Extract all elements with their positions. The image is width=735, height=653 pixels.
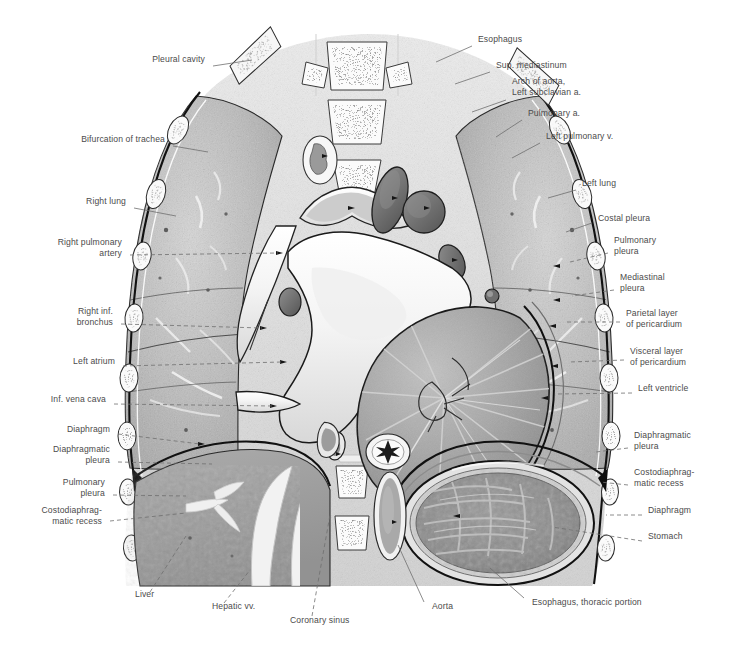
- leader-diaphragm-left: [118, 434, 200, 444]
- leader-left-lung: [548, 190, 576, 198]
- label-pulmonary-a: Pulmonary a.: [528, 108, 580, 119]
- label-pulmonary-pleura-left: Pulmonary pleura: [63, 477, 105, 499]
- label-right-inf-bronchus: Right inf. bronchus: [77, 306, 113, 328]
- label-pulmonary-pleura-right: Pulmonary pleura: [614, 235, 656, 257]
- esophagus-and-aorta-lower: [313, 420, 410, 560]
- label-esophagus-thoracic-portion: Esophagus, thoracic portion: [532, 597, 642, 608]
- label-diaphragm-right: Diaphragm: [648, 505, 691, 516]
- leader-esophagus-top: [436, 46, 472, 62]
- label-pleural-cavity: Pleural cavity: [152, 54, 205, 65]
- label-liver: Liver: [135, 589, 154, 600]
- anatomical-figure: Pleural cavityBifurcation of tracheaRigh…: [0, 0, 735, 653]
- heart: [236, 232, 580, 540]
- leader-sup-mediastinum: [455, 72, 490, 84]
- label-esophagus-top: Esophagus: [478, 34, 522, 45]
- leader-costal-pleura: [566, 223, 592, 232]
- label-costodiaphragmatic-recess-left: Costodiaphrag- matic recess: [42, 505, 102, 527]
- label-bifurcation-of-trachea: Bifurcation of trachea: [81, 134, 165, 145]
- leader-visceral-layer-pericardium: [570, 360, 624, 362]
- leader-right-lung: [134, 208, 176, 216]
- leader-esophagus-thoracic-portion: [490, 568, 524, 598]
- liver: [120, 440, 350, 600]
- label-parietal-layer-pericardium: Parietal layer of pericardium: [626, 308, 682, 330]
- leader-stomach: [552, 527, 642, 541]
- leader-right-pulmonary-artery: [130, 253, 278, 255]
- label-aorta: Aorta: [432, 601, 453, 612]
- label-hepatic-vv: Hepatic vv.: [212, 601, 255, 612]
- leader-hepatic-vv: [224, 570, 250, 603]
- label-right-lung: Right lung: [86, 196, 126, 207]
- leader-liver: [150, 536, 186, 592]
- leader-bifurcation-of-trachea: [173, 146, 208, 152]
- ribs-right-wall: [118, 27, 286, 562]
- label-right-pulmonary-artery: Right pulmonary artery: [58, 237, 122, 259]
- trachea-and-bronchi: [237, 187, 408, 362]
- label-diaphragm-left: Diaphragm: [67, 424, 110, 435]
- vertebral-column: [302, 34, 412, 550]
- great-vessels: [279, 136, 470, 316]
- label-costal-pleura: Costal pleura: [598, 213, 650, 224]
- leader-left-pulmonary-v: [512, 143, 540, 158]
- leader-costodiaphragmatic-recess-right: [600, 482, 628, 485]
- leader-inf-vena-cava: [114, 404, 272, 406]
- leader-pulmonary-pleura-left: [113, 495, 186, 496]
- leader-left-atrium: [123, 362, 282, 366]
- label-left-lung: Left lung: [582, 178, 616, 189]
- leader-left-ventricle: [556, 393, 632, 394]
- label-left-pulmonary-v: Left pulmonary v.: [546, 131, 613, 142]
- leader-aorta: [398, 545, 424, 602]
- leader-pulmonary-a: [496, 120, 522, 137]
- leader-pleural-cavity: [213, 60, 252, 66]
- label-left-atrium: Left atrium: [73, 356, 115, 367]
- label-mediastinal-pleura: Mediastinal pleura: [620, 272, 665, 294]
- label-left-ventricle: Left ventricle: [638, 383, 688, 394]
- label-visceral-layer-pericardium: Visceral layer of pericardium: [630, 346, 686, 368]
- leader-mediastinal-pleura: [572, 290, 614, 296]
- leader-arch-of-aorta: [472, 100, 506, 112]
- label-sup-mediastinum: Sup. mediastinum: [496, 60, 567, 71]
- label-inf-vena-cava: Inf. vena cava: [51, 394, 106, 405]
- leader-right-inf-bronchus: [121, 324, 262, 328]
- label-coronary-sinus: Coronary sinus: [290, 615, 349, 626]
- leader-diaphragmatic-pleura-left: [118, 462, 212, 464]
- leader-coronary-sinus: [312, 515, 330, 616]
- pleural-layers: [129, 92, 609, 584]
- label-diaphragmatic-pleura-right: Diaphragmatic pleura: [634, 430, 691, 452]
- label-costodiaphragmatic-recess-right: Costodiaphrag- matic recess: [634, 467, 694, 489]
- diaphragm: [132, 442, 608, 496]
- pointer-arrowheads: [198, 154, 560, 524]
- ribs-left-wall: [501, 48, 620, 562]
- stomach: [402, 461, 595, 585]
- label-diaphragmatic-pleura-left: Diaphragmatic pleura: [53, 444, 110, 466]
- label-stomach: Stomach: [648, 531, 683, 542]
- leader-costodiaphragmatic-recess-left: [110, 513, 186, 521]
- left-lung-field: [420, 80, 640, 500]
- leader-pulmonary-pleura-right: [570, 253, 608, 262]
- label-arch-of-aorta: Arch of aorta, Left subclavian a.: [512, 76, 581, 98]
- leader-diaphragmatic-pleura-right: [596, 448, 628, 452]
- esophagus-thoracic-marker: [452, 463, 544, 470]
